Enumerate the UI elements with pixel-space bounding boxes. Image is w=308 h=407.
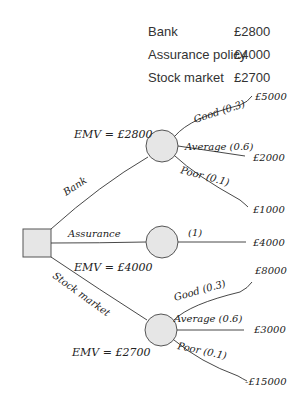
payoff: £8000 [254, 265, 287, 276]
branch-bank-label: Bank [60, 174, 88, 198]
chance-node-stock [145, 314, 177, 346]
outcome-label: Poor (0.1) [176, 340, 228, 361]
decision-node [23, 229, 51, 257]
outcome-label: Average (0.6) [184, 141, 253, 152]
emv-assurance: EMV = £4000 [73, 261, 152, 274]
outcome-label: Good (0.3) [173, 278, 227, 303]
emv-stock: EMV = £2700 [71, 346, 150, 359]
outcome-label: Average (0.6) [173, 313, 242, 324]
branch-assurance-label: Assurance [67, 228, 121, 239]
payoff: -£15000 [245, 376, 287, 387]
payoff: £4000 [252, 237, 285, 248]
payoff: £2000 [252, 152, 285, 163]
emv-bank: EMV = £2800 [73, 128, 152, 141]
decision-tree: EMV = £2800 EMV = £4000 EMV = £2700 Bank… [0, 0, 308, 407]
outcome-label: (1) [188, 227, 202, 238]
payoff: £3000 [253, 324, 286, 335]
chance-node-assurance [146, 226, 178, 258]
outcome-label: Poor (0.1) [179, 164, 231, 188]
branch-assurance-line [51, 242, 146, 243]
outcome-label: Good (0.3) [192, 98, 246, 125]
payoff: £1000 [252, 204, 285, 215]
payoff: £5000 [254, 91, 287, 102]
